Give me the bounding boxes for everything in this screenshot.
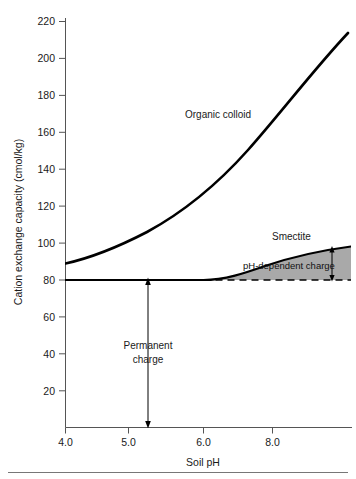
- permanent-charge-label-line2: charge: [133, 354, 164, 365]
- y-tick-marks: [59, 22, 66, 391]
- y-tick-label: 100: [37, 237, 55, 249]
- x-tick-marks: [66, 428, 273, 434]
- y-tick-label: 60: [43, 311, 55, 323]
- y-tick-label: 160: [37, 126, 55, 138]
- x-tick-label: 6.0: [196, 436, 211, 448]
- x-tick-labels: 4.0 5.0 6.0 8.0: [58, 436, 280, 448]
- y-tick-label: 220: [37, 15, 55, 27]
- permanent-charge-label-line1: Permanent: [124, 340, 173, 351]
- y-tick-label: 120: [37, 200, 55, 212]
- organic-colloid-label: Organic colloid: [185, 109, 251, 120]
- y-tick-label: 200: [37, 52, 55, 64]
- ph-dependent-charge-label: pH-dependent charge: [243, 260, 335, 271]
- y-tick-labels: 220 200 180 160 140 120 100 80 60 40 20: [37, 15, 55, 396]
- y-tick-label: 40: [43, 348, 55, 360]
- y-tick-label: 80: [43, 274, 55, 286]
- permanent-charge-arrow: [145, 278, 151, 429]
- smectite-label: Smectite: [272, 231, 311, 242]
- y-axis-title: Cation exchange capacity (cmol/kg): [12, 139, 24, 305]
- organic-colloid-curve: [66, 33, 349, 264]
- x-tick-label: 8.0: [265, 436, 280, 448]
- x-tick-label: 5.0: [121, 436, 136, 448]
- x-axis-title: Soil pH: [186, 456, 220, 468]
- y-tick-label: 180: [37, 89, 55, 101]
- cec-vs-soil-ph-figure: 220 200 180 160 140 120 100 80 60 40 20 …: [0, 0, 356, 479]
- y-tick-label: 140: [37, 163, 55, 175]
- y-tick-label: 20: [43, 385, 55, 397]
- chart-canvas: 220 200 180 160 140 120 100 80 60 40 20 …: [0, 0, 356, 479]
- x-tick-label: 4.0: [58, 436, 73, 448]
